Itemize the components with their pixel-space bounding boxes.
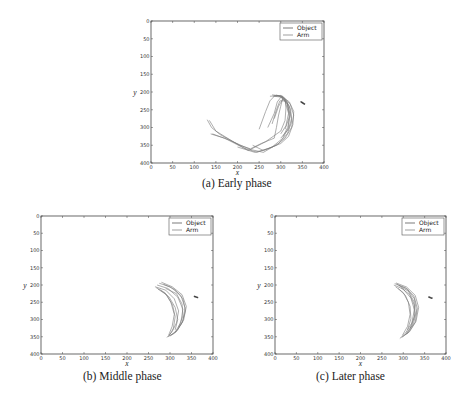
x-axis-label: x [124,359,129,368]
x-tick-label: 400 [319,164,329,170]
y-tick-label: 300 [140,124,150,130]
y-tick-label: 0 [270,213,273,219]
legend: ObjectArm [280,23,322,40]
y-tick-label: 350 [140,142,150,148]
y-axis-label: y [22,281,27,290]
x-tick-label: 0 [273,355,276,361]
x-tick-label: 350 [420,355,430,361]
chart-panel-early: 0501001502002503003504000501001502002503… [0,0,474,200]
x-tick-label: 100 [189,164,199,170]
legend-entry: Arm [419,226,431,233]
caption-later-phase: (c) Later phase [316,370,385,382]
caption-early-phase: (a) Early phase [202,177,272,189]
y-tick-label: 200 [140,89,150,95]
x-tick-label: 300 [165,355,175,361]
x-axis-label: x [358,359,363,368]
x-tick-label: 150 [101,355,111,361]
y-tick-label: 100 [140,53,150,59]
y-tick-label: 50 [143,36,149,42]
y-tick-label: 350 [264,334,274,340]
y-tick-label: 400 [140,160,150,166]
y-tick-label: 250 [30,299,40,305]
x-tick-label: 50 [169,164,175,170]
x-tick-label: 0 [149,164,152,170]
chart-early-svg: 0501001502002503003504000501001502002503… [0,0,474,200]
x-tick-label: 50 [293,355,299,361]
y-axis-label: y [256,281,261,290]
x-tick-label: 150 [211,164,221,170]
plot-frame [41,216,213,354]
y-tick-label: 300 [264,316,274,322]
legend: ObjectArm [169,218,211,235]
y-tick-label: 0 [146,18,149,24]
x-tick-label: 350 [298,164,308,170]
x-tick-label: 100 [79,355,89,361]
x-tick-label: 0 [39,355,42,361]
plot-frame [151,21,324,163]
y-tick-label: 250 [140,107,150,113]
x-tick-label: 100 [313,355,323,361]
x-tick-label: 250 [254,164,264,170]
chart-panel-later: 0501001502002503003504000501001502002503… [234,200,474,411]
y-tick-label: 150 [30,265,40,271]
y-tick-label: 50 [33,230,39,236]
object-trajectory [429,297,432,298]
y-tick-label: 150 [140,71,150,77]
y-tick-label: 400 [264,351,274,357]
y-tick-label: 250 [264,299,274,305]
legend-entry: Arm [186,226,198,233]
y-axis-label: y [132,88,137,97]
x-tick-label: 250 [377,355,387,361]
legend: ObjectArm [402,218,444,235]
x-tick-label: 350 [187,355,197,361]
y-tick-label: 200 [264,282,274,288]
y-tick-label: 350 [30,334,40,340]
y-tick-label: 400 [30,351,40,357]
x-tick-label: 150 [334,355,344,361]
object-trajectory [195,296,198,297]
x-tick-label: 400 [441,355,451,361]
y-tick-label: 300 [30,316,40,322]
y-tick-label: 200 [30,282,40,288]
y-tick-label: 50 [267,230,273,236]
y-tick-label: 100 [30,247,40,253]
legend-entry: Arm [297,31,309,38]
x-tick-label: 400 [208,355,218,361]
y-tick-label: 0 [36,213,39,219]
x-axis-label: x [235,168,240,177]
x-tick-label: 250 [144,355,154,361]
plot-frame [275,216,446,354]
chart-panel-middle: 0501001502002503003504000501001502002503… [0,200,237,411]
caption-middle-phase: (b) Middle phase [83,370,162,382]
x-tick-label: 300 [398,355,408,361]
x-tick-label: 50 [59,355,65,361]
y-tick-label: 100 [264,247,274,253]
y-tick-label: 150 [264,265,274,271]
x-tick-label: 300 [276,164,286,170]
